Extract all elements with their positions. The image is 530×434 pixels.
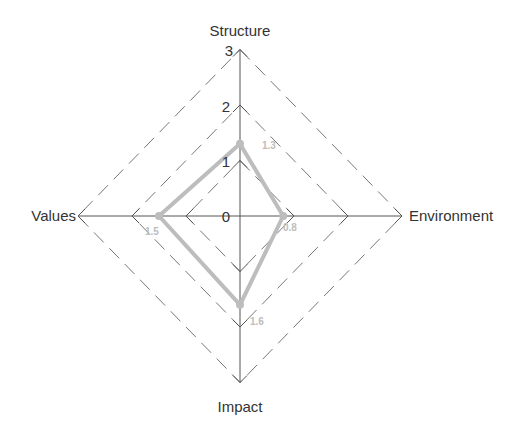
value-label-values: 1.5 — [145, 226, 159, 237]
data-point-environment — [279, 212, 287, 220]
data-point-impact — [236, 301, 244, 309]
tick-label-3: 3 — [225, 42, 233, 59]
data-point-structure — [236, 140, 244, 148]
axis-label-impact: Impact — [217, 398, 263, 415]
axis-label-values: Values — [31, 207, 76, 224]
value-label-environment: 0.8 — [283, 222, 297, 233]
tick-label-0: 0 — [222, 208, 230, 225]
tick-label-1: 1 — [222, 153, 230, 170]
value-label-structure: 1.3 — [262, 140, 276, 151]
axis-label-environment: Environment — [409, 207, 494, 224]
radar-chart: Structure Environment Impact Values 0 1 … — [0, 0, 530, 434]
axis-label-structure: Structure — [210, 22, 271, 39]
tick-label-2: 2 — [222, 98, 230, 115]
tick-labels: 0 1 2 3 — [222, 42, 233, 225]
data-point-values — [155, 212, 163, 220]
axis-labels: Structure Environment Impact Values — [31, 22, 494, 415]
radar-axes — [78, 50, 402, 383]
value-label-impact: 1.6 — [250, 316, 264, 327]
